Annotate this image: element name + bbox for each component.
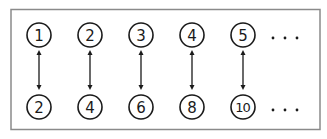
bottom-number-1: 2 <box>34 99 44 117</box>
top-number-2: 2 <box>85 27 95 45</box>
top-number-5: 5 <box>238 27 248 45</box>
bijection-diagram: 1 2 2 4 3 6 4 8 5 <box>0 0 327 139</box>
bottom-number-2: 4 <box>85 99 95 117</box>
diagram-frame <box>11 10 320 130</box>
top-number-1: 1 <box>34 27 44 45</box>
bottom-number-5: 10 <box>235 100 250 115</box>
bottom-number-3: 6 <box>136 99 146 117</box>
top-number-3: 3 <box>136 27 146 45</box>
top-number-4: 4 <box>187 27 197 45</box>
bottom-number-4: 8 <box>187 99 197 117</box>
